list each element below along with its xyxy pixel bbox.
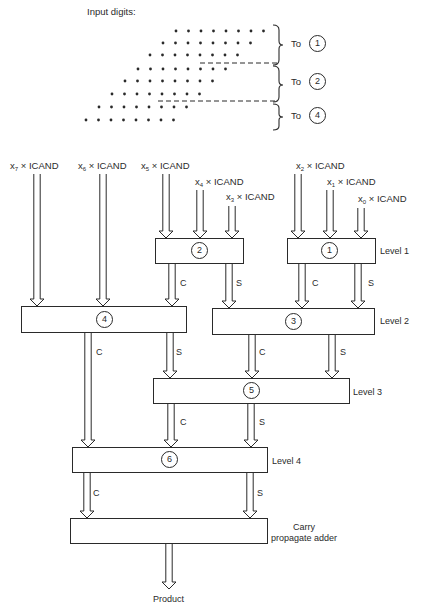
- input-label-x6: x6 × ICAND: [78, 160, 127, 172]
- bus-arrow: [245, 335, 259, 378]
- input-digit-dot: [136, 80, 139, 83]
- input-digit-dot: [149, 80, 152, 83]
- input-digit-dot: [123, 106, 126, 109]
- input-digit-dot: [211, 80, 214, 83]
- group-2-to-label: To: [291, 76, 301, 87]
- input-digit-dot: [135, 106, 138, 109]
- bus-arrow: [351, 264, 365, 308]
- input-digit-dot: [123, 93, 126, 96]
- input-digit-dot: [199, 68, 202, 71]
- bus-arrow: [30, 174, 44, 306]
- input-label-x4: x4 × ICAND: [195, 176, 244, 188]
- input-digit-dot: [162, 42, 165, 45]
- level-2-label: Level 2: [380, 316, 409, 326]
- input-digits-title: Input digits:: [87, 6, 136, 17]
- input-digit-dot: [212, 30, 215, 33]
- bus-arrow: [244, 404, 258, 447]
- input-digit-dot: [137, 68, 140, 71]
- csa-2-id: 2: [191, 242, 208, 259]
- input-digit-dot: [187, 42, 190, 45]
- csa-5-carry-label: C: [180, 417, 187, 427]
- input-digit-dot: [262, 30, 265, 33]
- csa-5-id: 5: [243, 382, 260, 399]
- input-digit-dot: [98, 106, 101, 109]
- input-digit-dot: [147, 119, 150, 122]
- input-label-x2: x2 × ICAND: [296, 160, 345, 172]
- input-digit-dot: [185, 106, 188, 109]
- csa-6-sum-label: S: [257, 488, 263, 498]
- csa-4-id: 4: [96, 311, 113, 328]
- input-digit-dot: [97, 119, 100, 122]
- input-digit-dot: [224, 54, 227, 57]
- group-1-target-circle: 1: [309, 35, 326, 52]
- level-1-label: Level 1: [380, 246, 409, 256]
- input-digit-dot: [122, 119, 125, 122]
- csa-2-carry-label: C: [180, 278, 187, 288]
- input-digit-dot: [173, 106, 176, 109]
- csa-3-sum-label: S: [340, 347, 346, 357]
- input-label-x7: x7 × ICAND: [10, 160, 59, 172]
- bus-arrow: [81, 333, 95, 447]
- group-2-target-circle: 2: [309, 73, 326, 90]
- carry-propagate-adder: [70, 518, 268, 544]
- bus-arrow: [96, 174, 110, 306]
- brace-1: [273, 25, 283, 65]
- input-digit-dot: [160, 106, 163, 109]
- csa-1-sum-label: S: [368, 278, 374, 288]
- csa-2-sum-label: S: [236, 278, 242, 288]
- bus-arrow: [159, 174, 173, 238]
- input-digit-dot: [199, 54, 202, 57]
- input-digit-dot: [148, 93, 151, 96]
- input-digit-dot: [172, 119, 175, 122]
- level-3-label: Level 3: [353, 387, 382, 397]
- input-digit-dot: [237, 42, 240, 45]
- input-digit-dot: [135, 119, 138, 122]
- input-digit-dot: [211, 54, 214, 57]
- input-digit-dot: [174, 42, 177, 45]
- csa-3-id: 3: [285, 313, 302, 330]
- input-digit-dot: [173, 93, 176, 96]
- csa-1-id: 1: [321, 242, 338, 259]
- bus-arrow: [291, 174, 305, 238]
- bus-arrow: [354, 208, 368, 238]
- input-label-x1: x1 × ICAND: [327, 176, 376, 188]
- input-digit-dot: [110, 106, 113, 109]
- input-digit-dot: [249, 42, 252, 45]
- group-3-to-label: To: [291, 110, 301, 121]
- input-digit-dot: [110, 119, 113, 122]
- input-digit-dot: [149, 68, 152, 71]
- input-digit-dot: [224, 42, 227, 45]
- bus-arrow: [80, 473, 94, 518]
- input-digit-dot: [136, 93, 139, 96]
- input-digit-dot: [199, 80, 202, 83]
- bus-arrow: [325, 335, 339, 378]
- input-digit-dot: [160, 119, 163, 122]
- bus-arrow: [295, 264, 309, 308]
- bus-arrow: [193, 190, 207, 238]
- bus-arrow: [165, 264, 179, 306]
- input-digit-dot: [198, 93, 201, 96]
- input-digit-dot: [162, 68, 165, 71]
- csa-1-carry-label: C: [312, 278, 319, 288]
- input-label-x0: x0 × ICAND: [358, 193, 407, 205]
- input-digit-dot: [174, 68, 177, 71]
- bus-arrow: [222, 264, 236, 308]
- input-digit-dot: [149, 54, 152, 57]
- input-digit-dot: [200, 30, 203, 33]
- cpa-label-line1: Carry: [293, 522, 315, 532]
- input-digit-dot: [236, 54, 239, 57]
- csa-6-carry-label: C: [93, 488, 100, 498]
- csa-4-carry-label: C: [96, 347, 103, 357]
- input-label-x5: x5 × ICAND: [141, 160, 190, 172]
- input-digit-dot: [224, 68, 227, 71]
- input-digit-dot: [111, 93, 114, 96]
- csa-4-sum-label: S: [176, 347, 182, 357]
- product-label: Product: [153, 594, 184, 604]
- bus-arrow: [164, 404, 178, 447]
- input-digit-dot: [85, 119, 88, 122]
- input-digit-dot: [148, 106, 151, 109]
- input-digit-dot: [187, 68, 190, 71]
- input-digit-dot: [161, 80, 164, 83]
- bus-arrow: [162, 544, 176, 589]
- cpa-label-line2: propagate adder: [271, 533, 337, 543]
